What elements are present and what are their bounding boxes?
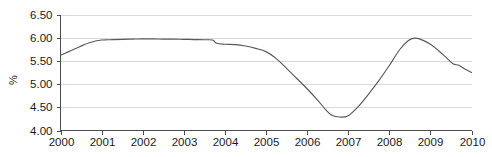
x-tick-label: 2005 <box>254 136 280 148</box>
x-tick-label: 2007 <box>336 136 362 148</box>
x-tick-label: 2009 <box>418 136 444 148</box>
x-tick-label: 2008 <box>377 136 403 148</box>
x-tick-label: 2010 <box>460 136 486 148</box>
y-tick-label: 5.50 <box>30 55 52 67</box>
x-tick-label: 2001 <box>90 136 116 148</box>
x-tick-label: 2004 <box>213 136 239 148</box>
x-tick-label: 2003 <box>172 136 198 148</box>
y-tick-label: 5.00 <box>30 78 52 90</box>
y-tick-label: 6.50 <box>30 9 52 21</box>
chart-container: 6.506.005.505.004.504.00 200020012002200… <box>0 0 492 157</box>
x-tick-label: 2006 <box>295 136 321 148</box>
chart-background <box>0 0 492 157</box>
line-chart: 6.506.005.505.004.504.00 200020012002200… <box>0 0 492 157</box>
x-tick-label: 2000 <box>49 136 75 148</box>
y-axis-label: % <box>7 75 19 85</box>
y-tick-label: 6.00 <box>30 32 52 44</box>
y-tick-label: 4.50 <box>30 101 52 113</box>
x-tick-label: 2002 <box>131 136 157 148</box>
